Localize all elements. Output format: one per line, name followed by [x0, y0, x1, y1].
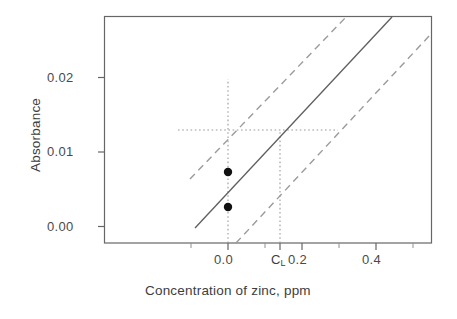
y-axis-ticks — [98, 78, 105, 227]
x-axis-ticks — [228, 243, 376, 250]
data-point — [224, 203, 232, 211]
detection-limit-label: CL — [271, 252, 285, 267]
x-axis-title: Concentration of zinc, ppm — [145, 283, 311, 298]
y-tick-label-0: 0.00 — [47, 219, 74, 234]
detection-limit-label-main: C — [271, 252, 280, 267]
plot-canvas — [0, 0, 457, 319]
chart-figure: 0.00 0.01 0.02 0.0 0.2 0.4 CL Concentrat… — [0, 0, 457, 319]
x-tick-label-1: 0.2 — [288, 252, 307, 267]
y-tick-label-1: 0.01 — [47, 144, 74, 159]
x-tick-label-0: 0.0 — [214, 252, 233, 267]
detection-limit-label-sub: L — [280, 258, 285, 268]
y-tick-label-2: 0.02 — [47, 70, 74, 85]
x-tick-label-2: 0.4 — [362, 252, 381, 267]
data-point — [224, 168, 232, 176]
y-axis-title: Absorbance — [28, 98, 43, 172]
plot-frame — [105, 17, 432, 244]
